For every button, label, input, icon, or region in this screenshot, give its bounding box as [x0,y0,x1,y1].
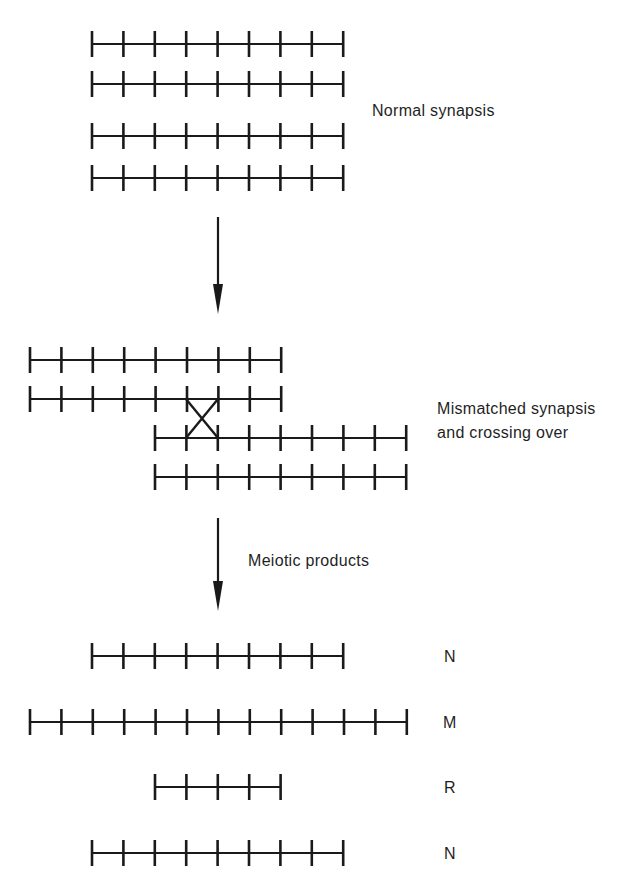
normal-synapsis-label: Normal synapsis [372,101,495,120]
chromatid [30,386,281,412]
chromatid [30,347,281,373]
chromatid [155,774,281,800]
mismatched-synapsis-label: Mismatched synapsis [437,399,596,418]
chromatid [30,709,407,735]
mismatched-synapsis-chromatids [30,347,406,490]
chromatid [92,643,343,669]
crossing-over-label: and crossing over [437,423,568,442]
down-arrow-icon [213,217,223,314]
normal-synapsis-chromatids [92,31,343,191]
chromatid [92,123,343,149]
chromatid [92,71,343,97]
product-label-m: M [443,713,457,732]
meiotic-product-chromatids [30,643,407,866]
crossover-x-icon [186,399,218,438]
chromatid [92,165,343,191]
meiotic-products-label: Meiotic products [248,551,369,570]
chromatid [92,840,343,866]
chromatid [92,31,343,57]
down-arrow-icon [213,518,223,611]
product-label-n2: N [444,844,456,863]
product-label-r: R [444,778,456,797]
chromatid [155,464,406,490]
product-label-n1: N [444,647,456,666]
